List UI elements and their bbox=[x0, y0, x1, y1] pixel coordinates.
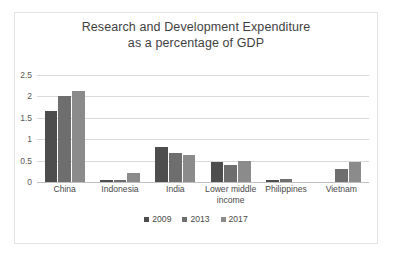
bar[interactable] bbox=[280, 179, 293, 182]
bar[interactable] bbox=[155, 147, 168, 182]
category-label-line: Vietnam bbox=[314, 184, 369, 195]
category-label: China bbox=[37, 184, 92, 195]
plot-area: 00.511.522.5 bbox=[37, 75, 369, 182]
chart-legend: 200920132017 bbox=[15, 215, 377, 224]
bar[interactable] bbox=[349, 162, 362, 182]
bar[interactable] bbox=[100, 180, 113, 182]
bar[interactable] bbox=[335, 169, 348, 182]
bar-group bbox=[45, 75, 85, 182]
y-axis-tick-label: 0 bbox=[27, 177, 32, 187]
category-label: Lower middleincome bbox=[203, 184, 258, 205]
bar[interactable] bbox=[183, 155, 196, 182]
category-label: Indonesia bbox=[92, 184, 147, 195]
bar[interactable] bbox=[127, 173, 140, 182]
y-axis-tick-label: 1.5 bbox=[20, 113, 32, 123]
category-label: India bbox=[148, 184, 203, 195]
bar[interactable] bbox=[114, 180, 127, 182]
legend-item[interactable]: 2013 bbox=[182, 215, 209, 224]
legend-swatch-icon bbox=[182, 217, 187, 222]
legend-label: 2009 bbox=[152, 215, 171, 224]
category-label-line: income bbox=[203, 195, 258, 206]
category-label-line: Indonesia bbox=[92, 184, 147, 195]
y-axis-tick-label: 0.5 bbox=[20, 156, 32, 166]
legend-item[interactable]: 2017 bbox=[221, 215, 248, 224]
bar-group bbox=[266, 75, 306, 182]
bar[interactable] bbox=[58, 96, 71, 182]
bar[interactable] bbox=[72, 91, 85, 182]
legend-swatch-icon bbox=[144, 217, 149, 222]
bar[interactable] bbox=[238, 161, 251, 182]
chart-title-line-2: as a percentage of GDP bbox=[15, 36, 377, 52]
chart-frame: Research and Development Expenditure as … bbox=[14, 12, 378, 244]
category-label-line: Philippines bbox=[258, 184, 313, 195]
bar[interactable] bbox=[266, 180, 279, 182]
bar-group bbox=[100, 75, 140, 182]
y-axis-tick-label: 2.5 bbox=[20, 70, 32, 80]
bar-group bbox=[155, 75, 195, 182]
category-label-line: India bbox=[148, 184, 203, 195]
bar[interactable] bbox=[45, 111, 58, 182]
y-axis-tick-label: 2 bbox=[27, 91, 32, 101]
y-axis-tick-label: 1 bbox=[27, 134, 32, 144]
chart-title-line-1: Research and Development Expenditure bbox=[15, 20, 377, 36]
category-label: Vietnam bbox=[314, 184, 369, 195]
legend-swatch-icon bbox=[221, 217, 226, 222]
category-axis-labels: ChinaIndonesiaIndiaLower middleincomePhi… bbox=[37, 184, 369, 216]
bar[interactable] bbox=[224, 165, 237, 182]
legend-label: 2013 bbox=[190, 215, 209, 224]
bar[interactable] bbox=[211, 162, 224, 182]
bars-layer bbox=[37, 75, 369, 182]
legend-label: 2017 bbox=[229, 215, 248, 224]
category-label: Philippines bbox=[258, 184, 313, 195]
category-label-line: China bbox=[37, 184, 92, 195]
category-label-line: Lower middle bbox=[203, 184, 258, 195]
bar-group bbox=[321, 75, 361, 182]
chart-title: Research and Development Expenditure as … bbox=[15, 20, 377, 51]
bar-group bbox=[211, 75, 251, 182]
bar[interactable] bbox=[169, 153, 182, 182]
axis-baseline: 0 bbox=[37, 182, 369, 183]
legend-item[interactable]: 2009 bbox=[144, 215, 171, 224]
